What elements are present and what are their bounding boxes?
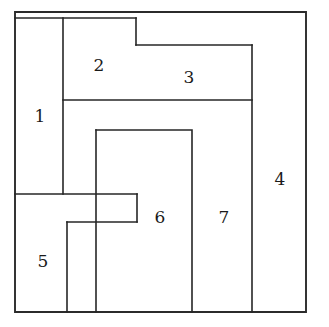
piece-4-label: 4: [275, 169, 286, 189]
piece-faces: [15, 12, 306, 312]
piece-2-label: 2: [94, 55, 105, 75]
piece-6-face: [96, 130, 192, 312]
piece-3-label: 3: [184, 67, 195, 87]
piece-7-label: 7: [219, 207, 230, 227]
piece-5-label: 5: [38, 251, 49, 271]
piece-1-label: 1: [35, 106, 46, 126]
piece-6-label: 6: [155, 207, 166, 227]
dissection-diagram: 1 2 3 4 5 6 7: [0, 0, 329, 327]
dissection-figure: 1 2 3 4 5 6 7: [0, 0, 329, 327]
